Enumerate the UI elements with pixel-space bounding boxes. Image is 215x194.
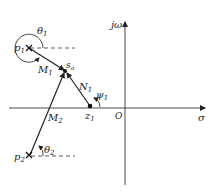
psi1-label: ψ1 <box>96 89 108 102</box>
M1-label: M1 <box>37 64 53 77</box>
M2-label: M2 <box>47 112 63 125</box>
theta2-label: θ2 <box>44 144 55 157</box>
z1-label: z1 <box>84 110 95 123</box>
origin-label: O <box>115 111 123 121</box>
sa-label: sa <box>66 60 75 71</box>
theta2-arc <box>39 146 43 156</box>
real-axis-label: σ <box>198 112 206 123</box>
theta1-label: θ1 <box>37 25 48 38</box>
vector-M2 <box>30 73 64 155</box>
imag-axis-label: jω <box>109 19 122 30</box>
s-plane-diagram: jω σ O p1 p2 z1 sa M1 M2 N1 θ1 θ2 ψ1 <box>0 0 215 194</box>
pole-p2-marker <box>26 152 32 158</box>
zero-z1-marker <box>88 104 93 109</box>
p2-label: p2 <box>14 151 25 164</box>
